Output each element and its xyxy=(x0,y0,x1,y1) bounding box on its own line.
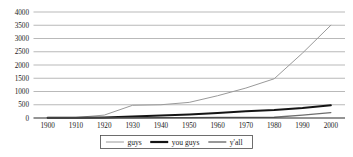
y-axis-tick-label: 3000 xyxy=(15,35,30,43)
y-axis-tick-labels: 05001000150020002500300035004000 xyxy=(15,9,30,123)
y-axis-tick-label: 500 xyxy=(18,101,29,109)
x-axis-tick-label: 1900 xyxy=(40,122,55,130)
x-axis-tick-label: 1970 xyxy=(239,122,254,130)
x-axis-tick-labels: 1900191019201930194019501960197019801990… xyxy=(40,122,338,130)
x-axis-tick-label: 1980 xyxy=(267,122,282,130)
legend-label-y-all[interactable]: y'all xyxy=(230,138,243,147)
data-series xyxy=(48,25,331,118)
legend-label-you-guys[interactable]: you guys xyxy=(172,138,200,147)
x-axis-tick-label: 1920 xyxy=(97,122,112,130)
x-axis-tick-label: 1990 xyxy=(295,122,310,130)
x-axis-tick-label: 1940 xyxy=(154,122,169,130)
line-chart: 05001000150020002500300035004000 1900191… xyxy=(0,0,353,157)
x-axis-tick-label: 2000 xyxy=(324,122,339,130)
chart-legend[interactable]: guysyou guysy'all xyxy=(100,136,252,149)
gridlines xyxy=(34,12,346,105)
x-axis-tick-label: 1930 xyxy=(125,122,140,130)
x-axis-tick-label: 1960 xyxy=(210,122,225,130)
series-line-guys xyxy=(48,25,331,117)
legend-label-guys[interactable]: guys xyxy=(127,138,141,147)
y-axis-tick-label: 3500 xyxy=(15,22,30,30)
y-axis-tick-label: 4000 xyxy=(15,9,30,17)
x-axis-tick-label: 1910 xyxy=(69,122,84,130)
y-axis-tick-label: 0 xyxy=(25,115,29,123)
y-axis-tick-label: 2000 xyxy=(15,62,30,70)
y-axis-tick-label: 1500 xyxy=(15,75,30,83)
x-axis-tick-label: 1950 xyxy=(182,122,197,130)
chart-canvas: 05001000150020002500300035004000 1900191… xyxy=(0,0,353,157)
y-axis-tick-label: 1000 xyxy=(15,88,30,96)
y-axis-tick-label: 2500 xyxy=(15,48,30,56)
